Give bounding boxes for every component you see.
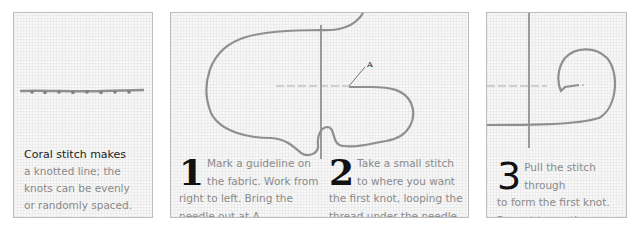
step-1: 1 Mark a guideline on the fabric. Work f…	[179, 155, 319, 218]
step-number: 3	[497, 161, 521, 191]
step-2: 2 Take a small stitch to where you want …	[329, 155, 469, 218]
steps-1-2-panel: A 1 Mark a guideline on the fabric. Work…	[170, 12, 469, 218]
step-text-line: to form the first knot.	[497, 194, 627, 212]
caption-lead: Coral stitch makes	[24, 146, 132, 163]
step-number: 2	[329, 157, 354, 187]
step-number: 1	[179, 157, 204, 187]
caption-line: knots can be evenly	[24, 180, 132, 197]
step-3: 3 Pull the stitch through to form the fi…	[497, 159, 627, 218]
step-text-line: right to left. Bring the	[179, 190, 319, 208]
step-text-line: the first knot, looping the	[329, 190, 469, 208]
step-text-line: thread under the needle.	[329, 208, 469, 219]
intro-caption: Coral stitch makes a knotted line; the k…	[24, 146, 132, 214]
intro-panel: Coral stitch makes a knotted line; the k…	[13, 12, 153, 218]
point-a-label: A	[367, 60, 373, 69]
step-text-line: needle out at A.	[179, 208, 319, 219]
step-text-line: Repeat to continue.	[497, 212, 627, 219]
caption-line: a knotted line; the	[24, 163, 132, 180]
caption-line: or randomly spaced.	[24, 197, 132, 214]
step-3-panel: 3 Pull the stitch through to form the fi…	[486, 12, 627, 218]
